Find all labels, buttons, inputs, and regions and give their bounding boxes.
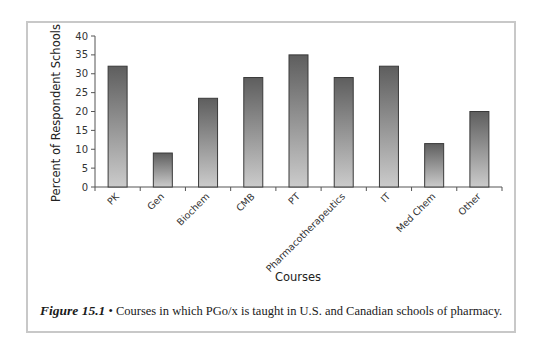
y-tick-label: 0 [82, 182, 88, 193]
x-axis-title: Courses [275, 270, 321, 284]
y-tick-label: 10 [75, 144, 88, 155]
figure-caption: Figure 15.1 • Courses in which PGo/x is … [40, 303, 510, 319]
bar-cmb [244, 78, 263, 187]
y-tick-label: 40 [75, 31, 88, 42]
y-tick-label: 25 [75, 87, 88, 98]
y-axis-title: Percent of Respondent Schools [49, 24, 63, 202]
x-tick-label: IT [378, 191, 392, 205]
bar-med-chem [425, 144, 444, 187]
x-tick-label: Med Chem [394, 191, 438, 235]
bar-gen [153, 153, 172, 187]
bar-pharmacotherapeutics [334, 78, 353, 187]
y-tick-label: 15 [75, 125, 88, 136]
x-tick-label: Other [456, 191, 483, 218]
y-tick-label: 20 [75, 106, 88, 117]
x-tick-label: CMB [234, 191, 257, 214]
caption-text: Courses in which PGo/x is taught in U.S.… [116, 304, 502, 318]
bar-it [379, 66, 398, 187]
bar-chart: 0510152025303540 PKGenBiochemCMBPTPharma… [0, 0, 542, 343]
caption-bullet: • [108, 304, 112, 318]
bar-pk [108, 66, 127, 187]
x-tick-label: PK [105, 190, 122, 207]
y-tick-label: 30 [75, 68, 88, 79]
bars [108, 55, 489, 187]
x-tick-label: Biochem [174, 191, 211, 228]
x-tick-label: PT [286, 191, 302, 207]
bar-biochem [199, 98, 218, 187]
figure-number: Figure 15.1 [40, 303, 105, 318]
y-tick-label: 35 [75, 49, 88, 60]
y-tick-label: 5 [82, 163, 88, 174]
x-tick-label: Gen [145, 191, 166, 212]
bar-other [470, 112, 489, 188]
y-axis: 0510152025303540 [75, 31, 95, 193]
x-tick-label: Pharmacotherapeutics [264, 191, 348, 275]
bar-pt [289, 55, 308, 187]
x-axis: PKGenBiochemCMBPTPharmacotherapeuticsITM… [95, 187, 502, 274]
